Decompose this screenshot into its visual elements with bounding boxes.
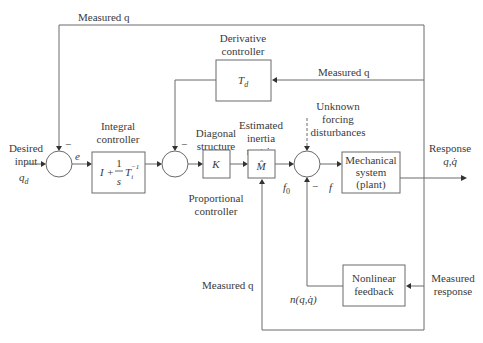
integral-expr-den: s xyxy=(117,175,121,187)
plant-line-3: (plant) xyxy=(356,178,386,191)
plant-line-1: Mechanical xyxy=(345,154,396,166)
arrow-head-icon xyxy=(157,161,162,167)
arrow-head-icon xyxy=(337,161,342,167)
arrow-head-icon xyxy=(289,161,294,167)
nonlinear-line-1: Nonlinear xyxy=(352,272,396,284)
arrow-head-icon xyxy=(172,146,178,151)
nonlinear-output-label: n(q,q̇) xyxy=(290,293,317,306)
inertia-title-1: Estimated xyxy=(239,119,283,131)
measured-response-label-1: Measured xyxy=(431,272,475,284)
proportional-caption-1: Proportional xyxy=(189,192,244,204)
integral-expr-num: 1 xyxy=(116,157,122,169)
nonlinear-output-path xyxy=(304,177,343,286)
arrow-head-icon xyxy=(304,177,310,182)
arrow-head-icon xyxy=(87,161,92,167)
disturbance-label-1: Unknown xyxy=(316,100,360,112)
inertia-symbol: M̂ xyxy=(255,160,266,172)
m-output-path xyxy=(275,161,294,167)
desired-input-label-1: Desired xyxy=(9,142,44,154)
sum3-minus-sign: − xyxy=(312,180,318,192)
integral-title-1: Integral xyxy=(101,120,135,132)
f-path xyxy=(320,161,342,167)
summing-junction-3 xyxy=(294,151,320,177)
measured-response-label-2: response xyxy=(434,285,473,297)
summing-junction-1 xyxy=(46,151,72,177)
sum2-output-path xyxy=(188,161,203,167)
arrow-head-icon xyxy=(56,146,62,151)
plant-line-2: system xyxy=(356,166,387,178)
response-label-2: q,q̇ xyxy=(443,155,457,167)
arrow-head-icon xyxy=(259,179,265,184)
summing-junction-2 xyxy=(162,151,188,177)
bottom-feedback-path xyxy=(259,179,424,330)
derivative-title-2: controller xyxy=(222,45,265,57)
inertia-title-2: inertia xyxy=(247,132,275,144)
measured-response-path xyxy=(406,283,424,289)
integral-output-path xyxy=(145,161,162,167)
arrow-head-icon xyxy=(406,283,411,289)
desired-input-label-2: input xyxy=(15,155,38,167)
arrow-head-icon xyxy=(243,161,248,167)
nonlinear-line-2: feedback xyxy=(354,285,394,297)
disturbance-path xyxy=(304,118,310,151)
block-diagram: Measured q Derivative controller Td Meas… xyxy=(0,0,483,343)
k-output-path xyxy=(230,161,248,167)
integral-title-2: controller xyxy=(97,133,140,145)
proportional-symbol: K xyxy=(211,158,220,170)
bottom-feedback-label: Measured q xyxy=(202,279,254,291)
desired-input-symbol: qd xyxy=(19,171,30,186)
arrow-head-icon xyxy=(461,175,467,181)
arrow-head-icon xyxy=(272,77,277,83)
response-path xyxy=(400,175,467,181)
derivative-title-1: Derivative xyxy=(220,32,267,44)
proportional-title-1: Diagonal xyxy=(196,127,236,139)
proportional-caption-2: controller xyxy=(195,205,238,217)
f-label: f xyxy=(329,181,334,193)
top-feedback-label: Measured q xyxy=(78,11,130,23)
response-label-1: Response xyxy=(429,142,471,154)
arrow-head-icon xyxy=(41,161,46,167)
sum1-minus-sign: − xyxy=(65,138,71,150)
disturbance-label-2: forcing xyxy=(322,113,354,125)
sum2-minus-sign: − xyxy=(181,138,187,150)
arrow-head-icon xyxy=(198,161,203,167)
derivative-feedback-label: Measured q xyxy=(318,66,370,78)
disturbance-label-3: disturbances xyxy=(311,126,366,138)
arrow-head-icon xyxy=(304,146,310,151)
error-label: e xyxy=(75,150,80,162)
f0-label: f0 xyxy=(283,181,290,196)
integral-expr-I: I + xyxy=(99,166,114,178)
